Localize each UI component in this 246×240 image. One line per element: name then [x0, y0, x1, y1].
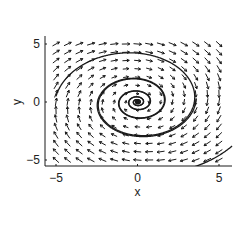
field-arrow [122, 150, 129, 153]
field-arrow [216, 158, 223, 162]
field-arrow [64, 50, 71, 54]
field-arrow [181, 133, 187, 137]
field-arrow [205, 66, 210, 73]
field-arrow [100, 133, 106, 137]
field-arrow [146, 68, 152, 71]
field-arrow [76, 42, 83, 45]
field-arrow [194, 74, 198, 80]
field-arrow [193, 124, 198, 129]
field-arrow [112, 117, 116, 120]
field-arrow [123, 67, 129, 70]
x-tick-label: 0 [134, 171, 141, 185]
field-arrow [181, 50, 188, 54]
field-arrow [181, 42, 188, 46]
field-arrow [217, 65, 221, 72]
field-arrow [101, 99, 104, 104]
field-arrow [157, 43, 165, 46]
field-arrow [65, 149, 71, 154]
field-arrow [64, 42, 71, 46]
field-arrow [123, 126, 128, 129]
field-arrow [216, 41, 222, 46]
field-arrow [66, 123, 70, 130]
field-arrow [145, 150, 152, 153]
y-tick-label: 0 [33, 95, 40, 109]
field-arrow [78, 107, 81, 114]
field-arrow [204, 133, 210, 138]
field-arrow [157, 159, 165, 162]
equilibrium-point [136, 100, 140, 104]
field-arrow [171, 83, 174, 88]
field-arrow [88, 133, 93, 138]
field-arrow [122, 43, 130, 46]
field-arrow [99, 150, 106, 154]
field-arrow [169, 159, 177, 162]
axes: −505 −505 x y [10, 36, 232, 199]
field-arrow [88, 75, 93, 79]
field-arrow [204, 42, 210, 47]
field-arrow [111, 134, 117, 137]
field-arrow [217, 73, 220, 80]
field-arrow [146, 59, 153, 62]
field-arrow [111, 67, 117, 70]
field-arrow [54, 123, 57, 130]
field-arrow [206, 90, 209, 97]
y-ticks: −505 [26, 37, 47, 167]
field-arrow [76, 158, 83, 162]
field-arrow [157, 142, 164, 145]
field-arrow [170, 67, 176, 71]
field-arrow [135, 126, 140, 129]
field-arrow [53, 149, 58, 155]
field-arrow [64, 58, 71, 62]
field-arrow [181, 58, 187, 63]
field-arrow [204, 50, 210, 55]
field-arrow [206, 98, 209, 105]
field-arrow [145, 51, 152, 54]
field-arrow [87, 158, 94, 162]
field-arrow [145, 159, 153, 162]
field-arrow [135, 84, 139, 87]
field-arrow [53, 42, 60, 46]
field-arrow [160, 100, 163, 104]
field-arrow [53, 50, 60, 54]
field-arrow [159, 117, 163, 119]
field-arrow [192, 141, 199, 145]
field-arrow [148, 92, 151, 95]
field-arrow [55, 98, 58, 106]
field-arrow [65, 132, 70, 139]
field-arrow [90, 99, 93, 105]
field-arrow [89, 83, 93, 88]
field-arrow [180, 159, 188, 162]
field-arrow [170, 75, 175, 79]
field-arrow [157, 51, 164, 54]
field-arrow [89, 116, 92, 122]
field-arrow [66, 82, 70, 88]
field-arrow [101, 108, 104, 113]
field-arrow [124, 117, 128, 119]
field-arrow [113, 100, 116, 104]
field-arrow [205, 115, 209, 121]
field-arrow [180, 150, 188, 153]
field-arrow [148, 109, 151, 111]
field-arrow [78, 115, 81, 122]
field-arrow [217, 98, 220, 106]
field-arrow [89, 107, 92, 113]
field-arrow [216, 141, 222, 146]
field-arrow [134, 68, 140, 71]
field-arrow [125, 109, 128, 112]
field-arrow [99, 158, 106, 161]
field-arrow [64, 158, 70, 163]
field-arrow [67, 98, 70, 105]
field-arrow [113, 92, 116, 95]
field-arrow [192, 42, 199, 46]
field-arrow [157, 151, 165, 154]
field-arrow [99, 142, 105, 146]
field-arrow [110, 42, 118, 45]
field-arrow [158, 67, 164, 70]
field-arrow [88, 141, 94, 146]
field-arrow [111, 59, 118, 62]
field-arrow [100, 125, 105, 129]
field-arrow [53, 58, 59, 63]
field-arrow [158, 126, 163, 129]
field-arrow [217, 57, 222, 63]
field-arrow [169, 42, 176, 45]
